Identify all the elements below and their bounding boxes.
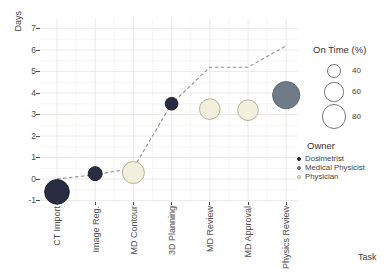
owner-legend-rows: DosimetristMedical PhysicistPhysician xyxy=(296,154,384,181)
y-tick-label: 6 xyxy=(22,45,36,56)
bubble-ct-import[interactable] xyxy=(45,180,70,205)
size-legend-circle-60 xyxy=(324,82,343,101)
x-tick-mark xyxy=(95,202,96,205)
y-tick-label: 1 xyxy=(22,152,36,163)
bubble-image-reg[interactable] xyxy=(88,167,102,181)
owner-dot-icon xyxy=(297,175,301,179)
y-tick-mark xyxy=(36,93,40,94)
y-tick-mark xyxy=(36,200,40,201)
size-legend-value: 80 xyxy=(352,112,361,122)
y-tick-label: 3 xyxy=(22,109,36,120)
y-tick-mark xyxy=(36,114,40,115)
size-legend: On Time (%) 406080 xyxy=(313,44,385,135)
size-legend-value: 40 xyxy=(352,66,361,76)
size-legend-circle-80 xyxy=(322,104,347,129)
x-tick-mark xyxy=(209,202,210,205)
owner-legend-item-physician: Physician xyxy=(296,172,384,181)
bubble-chart-figure: Days -101234567CT ImportImage Reg.MD Con… xyxy=(0,0,389,277)
y-tick-label: 5 xyxy=(22,66,36,77)
bubble-md-contour[interactable] xyxy=(122,162,144,184)
y-tick-mark xyxy=(36,179,40,180)
y-tick-mark xyxy=(36,28,40,29)
y-tick-label: 4 xyxy=(22,88,36,99)
size-legend-title: On Time (%) xyxy=(313,44,385,55)
size-legend-circles: 406080 xyxy=(313,57,385,135)
size-legend-circle-40 xyxy=(327,64,341,78)
y-tick-label: 7 xyxy=(22,23,36,34)
x-tick-mark xyxy=(57,202,58,205)
bubble-md-approval[interactable] xyxy=(238,100,259,121)
y-tick-mark xyxy=(36,157,40,158)
bubble-md-review[interactable] xyxy=(199,99,220,120)
owner-legend: Owner DosimetristMedical PhysicistPhysic… xyxy=(296,140,384,181)
owner-legend-item-dosimetrist: Dosimetrist xyxy=(296,154,384,163)
y-tick-label: 2 xyxy=(22,131,36,142)
y-tick-label: -1 xyxy=(22,195,36,206)
owner-dot-icon xyxy=(297,157,301,161)
y-tick-label: 0 xyxy=(22,174,36,185)
x-tick-mark xyxy=(171,202,172,205)
x-tick-mark xyxy=(248,202,249,205)
plot-area xyxy=(40,18,298,202)
x-tick-mark xyxy=(286,202,287,205)
size-legend-value: 60 xyxy=(352,87,361,97)
bubble-3d-planning[interactable] xyxy=(165,97,178,110)
bubble-physics-review[interactable] xyxy=(273,82,300,109)
y-tick-mark xyxy=(36,50,40,51)
owner-legend-title: Owner xyxy=(307,140,384,151)
x-axis-label: Task xyxy=(358,252,377,262)
owner-dot-icon xyxy=(297,166,301,170)
y-tick-mark xyxy=(36,71,40,72)
y-tick-mark xyxy=(36,136,40,137)
owner-legend-item-medical-physicist: Medical Physicist xyxy=(296,163,384,172)
